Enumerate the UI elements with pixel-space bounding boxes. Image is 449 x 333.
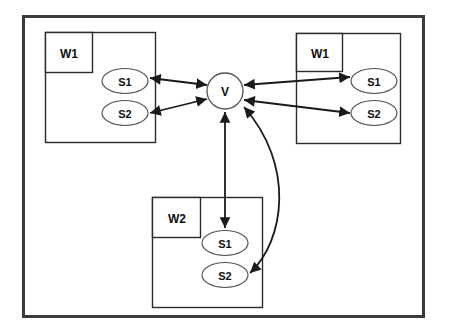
right-service-s1-label: S1	[367, 76, 380, 88]
group-left-workspace: W1 S1 S2	[46, 33, 156, 143]
architecture-diagram: W1 S1 S2 W1 S1 S2 W2 S1 S2	[0, 0, 449, 333]
left-service-s1-label: S1	[118, 76, 131, 88]
right-workspace-label: W1	[311, 47, 329, 61]
group-bottom-workspace: W2 S1 S2	[153, 198, 263, 308]
left-workspace-label: W1	[60, 47, 78, 61]
diagram-canvas: W1 S1 S2 W1 S1 S2 W2 S1 S2	[0, 0, 449, 333]
bottom-service-s2-label: S2	[218, 270, 231, 282]
right-service-s2-label: S2	[367, 108, 380, 120]
bottom-service-s1-label: S1	[218, 238, 231, 250]
group-right-workspace: W1 S1 S2	[297, 34, 401, 144]
bottom-workspace-label: W2	[168, 212, 186, 226]
hub-node: V	[207, 73, 243, 109]
left-service-s2-label: S2	[118, 108, 131, 120]
hub-v-label: V	[221, 85, 229, 99]
